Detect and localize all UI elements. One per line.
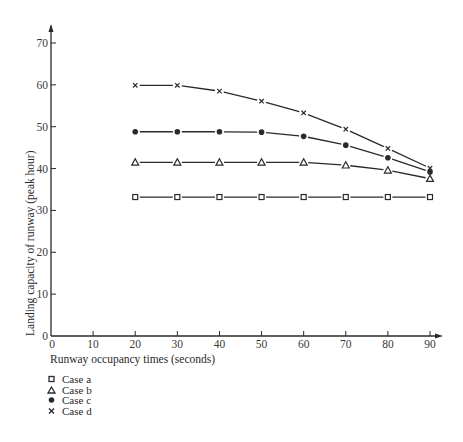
dot-icon: [132, 129, 138, 135]
square-icon: [46, 374, 58, 384]
dot-icon: [46, 395, 58, 405]
y-tick-label: 50: [37, 121, 49, 133]
triangle-icon: [258, 159, 265, 165]
triangle-icon: [216, 159, 223, 165]
triangle-icon: [384, 167, 391, 173]
series-case-b: [132, 159, 434, 182]
legend-item-case-a: Case a: [46, 374, 92, 385]
square-icon: [301, 195, 306, 200]
cross-icon: [386, 146, 390, 150]
data-series: [132, 83, 434, 199]
y-axis-title: Landing capacity of runway (peak hour): [24, 150, 37, 336]
legend-label: Case d: [62, 406, 92, 417]
y-tick-label: 0: [42, 330, 48, 342]
x-tick-label: 60: [298, 338, 310, 350]
y-tick-label: 60: [37, 79, 49, 91]
triangle-icon: [300, 159, 307, 165]
legend: Case a Case b Case c Case d: [46, 374, 92, 416]
square-icon: [385, 195, 390, 200]
x-tick-label: 10: [87, 338, 99, 350]
cross-icon: [217, 89, 221, 93]
triangle-icon: [427, 175, 434, 181]
y-tick-label: 40: [37, 163, 49, 175]
y-tick-label: 70: [37, 37, 49, 49]
square-icon: [259, 195, 264, 200]
x-tick-label: 90: [424, 338, 436, 350]
dot-icon: [217, 129, 223, 135]
triangle-icon: [174, 159, 181, 165]
legend-item-case-c: Case c: [46, 395, 92, 406]
square-icon: [133, 195, 138, 200]
square-icon: [343, 195, 348, 200]
cross-icon: [46, 406, 58, 416]
x-tick-label: 0: [49, 338, 55, 350]
triangle-icon: [342, 162, 349, 168]
y-axis-arrow-icon: [49, 24, 54, 32]
y-tick-label: 30: [37, 204, 49, 216]
cross-icon: [259, 99, 263, 103]
line-chart: 0102030405060700102030405060708090 Runwa…: [0, 0, 463, 370]
dot-icon: [175, 129, 181, 135]
square-icon: [175, 195, 180, 200]
cross-icon: [133, 83, 137, 87]
legend-label: Case c: [62, 395, 91, 406]
x-tick-label: 50: [256, 338, 268, 350]
legend-label: Case a: [62, 374, 91, 385]
dot-icon: [343, 142, 349, 148]
dot-icon: [301, 134, 307, 140]
series-case-a: [133, 195, 433, 200]
y-tick-label: 10: [37, 288, 49, 300]
cross-icon: [344, 127, 348, 131]
dot-icon: [259, 129, 265, 135]
cross-icon: [301, 111, 305, 115]
triangle-icon: [46, 385, 58, 395]
x-tick-label: 30: [172, 338, 184, 350]
axes: [49, 24, 444, 339]
x-tick-label: 80: [382, 338, 394, 350]
square-icon: [428, 195, 433, 200]
cross-icon: [175, 83, 179, 87]
legend-item-case-d: Case d: [46, 406, 92, 417]
x-tick-label: 70: [340, 338, 352, 350]
triangle-icon: [132, 159, 139, 165]
x-tick-label: 40: [214, 338, 226, 350]
x-tick-label: 20: [129, 338, 141, 350]
x-axis-title: Runway occupancy times (seconds): [50, 353, 215, 366]
x-axis-arrow-icon: [435, 334, 443, 339]
square-icon: [217, 195, 222, 200]
dot-icon: [385, 155, 391, 161]
y-tick-label: 20: [37, 246, 49, 258]
axis-ticks: 0102030405060700102030405060708090: [37, 37, 437, 350]
